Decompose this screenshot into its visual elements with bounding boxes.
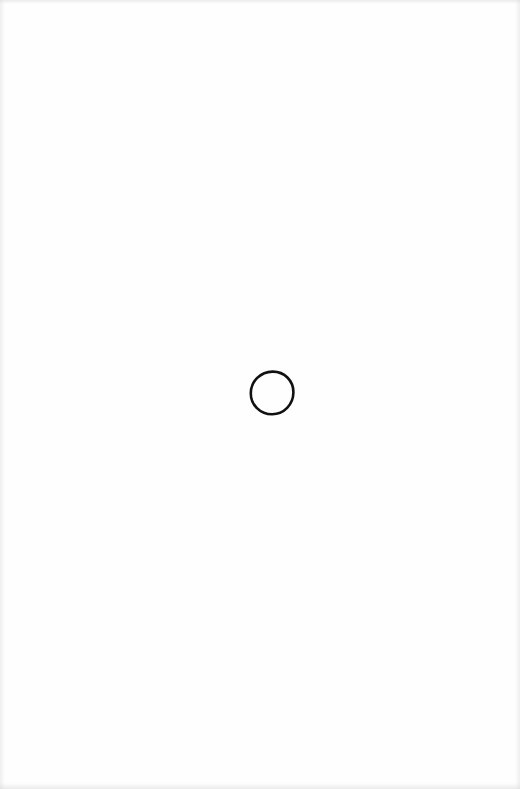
scan-edge-right (515, 0, 520, 789)
scanned-page: circle (0, 0, 520, 789)
circle-svg (248, 369, 296, 417)
scan-edge-top (0, 0, 520, 4)
scan-edge-left (0, 0, 5, 789)
scan-edge-bottom (0, 783, 520, 789)
hand-drawn-circle-icon (248, 369, 296, 417)
